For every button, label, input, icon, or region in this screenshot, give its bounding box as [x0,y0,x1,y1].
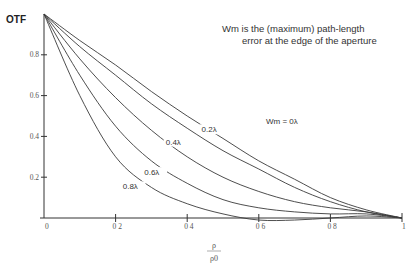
y-tick-label: 0.8 [30,50,40,59]
x-tick-label: 0 6 [256,222,266,231]
y-axis-label: OTF [6,14,26,25]
otf-chart: 0.20.40.60.8 00 20 40 60 81 Wm = 0λ0.2λ0… [0,0,409,274]
curve-label: 0.4λ [166,138,181,147]
curve-label: 0.2λ [202,125,217,134]
x-tick-label: 0 4 [184,222,194,231]
y-tick-label: 0.2 [30,173,40,182]
annotation-line-2: error at the edge of the aperture [242,35,377,46]
x-tick-label: 0 [45,222,49,231]
curve-label: 0.6λ [144,168,159,177]
curve-label: Wm = 0λ [266,117,298,126]
x-tick-label: 0 8 [327,222,337,231]
x-tick-label: 1 [402,222,406,231]
x-tick-label: 0 2 [113,222,123,231]
y-tick-label: 0.4 [30,132,40,141]
curve-label: 0.8λ [123,182,138,191]
y-tick-label: 0.6 [30,91,40,100]
annotation-line-1: Wm is the (maximum) path-length [222,23,365,34]
x-axis-label-numerator: ρ [212,241,216,250]
x-axis-label-denominator: ρ0 [210,254,218,263]
